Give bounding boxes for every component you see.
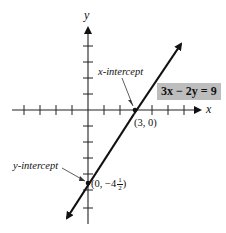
y-axis-label: y	[84, 9, 89, 21]
x-intercept-point	[133, 108, 138, 113]
coordinate-plane	[0, 0, 226, 233]
equation-label: 3x − 2y = 9	[157, 83, 221, 100]
x-intercept-label: x-intercept	[98, 67, 143, 78]
y-intercept-coordinates: (0, −412)	[91, 177, 126, 192]
x-axis	[12, 105, 200, 115]
y-intercept-point	[86, 181, 91, 186]
x-intercept-coordinates: (3, 0)	[134, 118, 157, 129]
x-axis-label: x	[206, 103, 211, 115]
y-intercept-leader-arrow	[62, 168, 85, 181]
y-axis	[83, 28, 93, 224]
y-intercept-label: y-intercept	[13, 161, 58, 172]
